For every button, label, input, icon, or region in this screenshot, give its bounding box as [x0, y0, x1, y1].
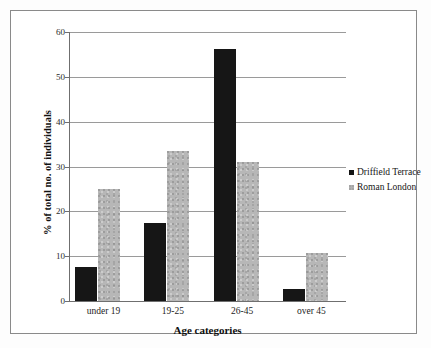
bar[interactable]	[167, 151, 189, 301]
bar[interactable]	[98, 189, 120, 301]
y-axis-tick-labels: 0102030405060	[33, 32, 65, 302]
y-tick-label: 0	[37, 297, 65, 306]
bar-group	[208, 32, 277, 301]
bar[interactable]	[306, 253, 328, 301]
legend-swatch-icon	[349, 170, 354, 175]
bar-group	[69, 32, 138, 301]
bar[interactable]	[144, 223, 166, 301]
y-tick-label: 60	[37, 28, 65, 37]
legend-item[interactable]: Roman London	[349, 182, 431, 192]
y-tick-label: 10	[37, 252, 65, 261]
x-axis-tick-labels: under 1919-2526-45over 45	[69, 306, 346, 320]
x-tick-label: under 19	[69, 306, 138, 317]
bar[interactable]	[75, 267, 97, 301]
bar[interactable]	[237, 162, 259, 301]
legend-label: Driffield Terrace	[357, 167, 421, 177]
legend-swatch-icon	[349, 185, 354, 190]
y-tick-label: 20	[37, 207, 65, 216]
bar-group	[277, 32, 346, 301]
legend-label: Roman London	[357, 182, 416, 192]
x-tick-label: 19-25	[138, 306, 207, 317]
plot-area	[69, 32, 346, 302]
y-tick-label: 50	[37, 73, 65, 82]
legend-item[interactable]: Driffield Terrace	[349, 167, 431, 177]
x-axis-line	[69, 301, 346, 302]
x-tick-label: over 45	[277, 306, 346, 317]
bar[interactable]	[214, 49, 236, 301]
chart-legend: Driffield TerraceRoman London	[349, 167, 431, 197]
y-tick-label: 40	[37, 118, 65, 127]
chart-frame: % of total no. of individuals 0102030405…	[10, 10, 417, 334]
bar-group	[138, 32, 207, 301]
x-axis-title: Age categories	[69, 324, 346, 336]
bar[interactable]	[283, 289, 305, 301]
y-tick-label: 30	[37, 163, 65, 172]
x-tick-label: 26-45	[208, 306, 277, 317]
figure: % of total no. of individuals 0102030405…	[0, 0, 431, 348]
